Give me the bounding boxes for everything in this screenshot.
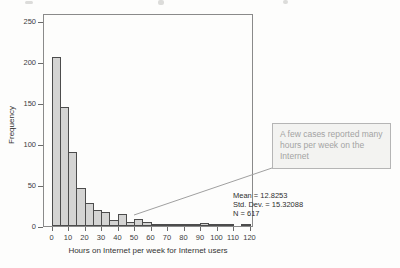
histogram-bar xyxy=(241,224,250,226)
x-axis-title: Hours on Internet per week for Internet … xyxy=(43,246,253,255)
y-axis-tick xyxy=(38,104,43,105)
y-axis-tick-label: 100 xyxy=(14,141,36,149)
scan-artifact xyxy=(283,0,288,4)
x-axis-tick xyxy=(52,227,53,231)
x-axis-tick xyxy=(233,227,234,231)
y-axis-tick xyxy=(38,227,43,228)
y-axis-tick-label: 50 xyxy=(14,182,36,190)
scan-artifact xyxy=(158,0,164,5)
x-axis-tick xyxy=(167,227,168,231)
y-axis-tick xyxy=(38,63,43,64)
x-axis-tick xyxy=(134,227,135,231)
histogram-figure: 0102030405060708090100110120050100150200… xyxy=(0,0,400,268)
y-axis-tick xyxy=(38,186,43,187)
y-axis-tick-label: 150 xyxy=(14,100,36,108)
x-axis-tick xyxy=(200,227,201,231)
x-axis-tick xyxy=(68,227,69,231)
stat-std-dev: Std. Dev. = 15.32088 xyxy=(233,200,303,209)
x-axis-tick xyxy=(151,227,152,231)
stat-n: N = 617 xyxy=(233,209,303,218)
stat-mean: Mean = 12.8253 xyxy=(233,191,303,200)
histogram-bar xyxy=(225,224,234,226)
scan-artifact xyxy=(25,1,33,4)
plot-area xyxy=(43,14,253,227)
x-axis-tick-label: 120 xyxy=(239,233,261,242)
y-axis-tick-label: 250 xyxy=(14,18,36,26)
y-axis-title: Frequency xyxy=(7,86,17,164)
stats-block: Mean = 12.8253 Std. Dev. = 15.32088 N = … xyxy=(233,191,303,218)
x-axis-tick xyxy=(118,227,119,231)
y-axis-tick-label: 200 xyxy=(14,59,36,67)
y-axis-tick-label: 0 xyxy=(14,223,36,231)
x-axis-tick xyxy=(85,227,86,231)
y-axis-tick xyxy=(38,145,43,146)
x-axis-tick xyxy=(101,227,102,231)
annotation-callout: A few cases reported many hours per week… xyxy=(272,123,391,169)
x-axis-tick xyxy=(250,227,251,231)
x-axis-tick xyxy=(184,227,185,231)
y-axis-tick xyxy=(38,22,43,23)
x-axis-tick xyxy=(217,227,218,231)
